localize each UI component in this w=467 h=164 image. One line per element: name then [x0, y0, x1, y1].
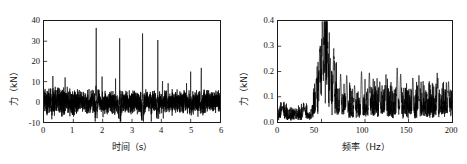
xtick-left-1: 1 — [64, 126, 80, 135]
ytick-left-20: 20 — [18, 57, 40, 66]
yaxis-title-force-left: 力（kN） — [10, 67, 19, 106]
figure-container: 40 30 20 10 0 -10 0 1 2 3 4 5 6 时间（s） 力（… — [0, 0, 467, 164]
xtick-right-200: 200 — [440, 126, 462, 135]
ytick-left-10: 10 — [18, 78, 40, 87]
ytick-left-0: 0 — [18, 98, 40, 107]
xtick-left-2: 2 — [94, 126, 110, 135]
ytick-left-30: 30 — [18, 37, 40, 46]
yaxis-title-force-right: 力（kN） — [240, 67, 249, 106]
plot-area-frequency-domain — [277, 20, 453, 123]
xtick-left-0: 0 — [35, 126, 51, 135]
xtick-right-0: 0 — [269, 126, 285, 135]
xtick-right-150: 150 — [395, 126, 417, 135]
time-domain-trace — [44, 21, 220, 122]
ytick-right-01: 0.1 — [248, 92, 274, 101]
plot-area-time-domain — [43, 20, 221, 123]
frequency-spectrum-trace — [278, 21, 452, 122]
chart-panel-frequency-domain: 0.4 0.3 0.2 0.1 0.0 0 50 100 150 200 频率（… — [234, 0, 467, 164]
xtick-left-3: 3 — [124, 126, 140, 135]
xaxis-title-frequency: 频率（Hz） — [316, 143, 416, 152]
xtick-left-4: 4 — [153, 126, 169, 135]
xtick-right-100: 100 — [351, 126, 373, 135]
xtick-right-50: 50 — [304, 126, 324, 135]
ytick-right-02: 0.2 — [248, 67, 274, 76]
ytick-right-03: 0.3 — [248, 41, 274, 50]
xtick-left-6: 6 — [213, 126, 229, 135]
ytick-right-04: 0.4 — [248, 16, 274, 25]
chart-panel-time-domain: 40 30 20 10 0 -10 0 1 2 3 4 5 6 时间（s） 力（… — [0, 0, 234, 164]
xaxis-title-time: 时间（s） — [82, 143, 182, 152]
ytick-left-40: 40 — [18, 16, 40, 25]
xtick-left-5: 5 — [183, 126, 199, 135]
